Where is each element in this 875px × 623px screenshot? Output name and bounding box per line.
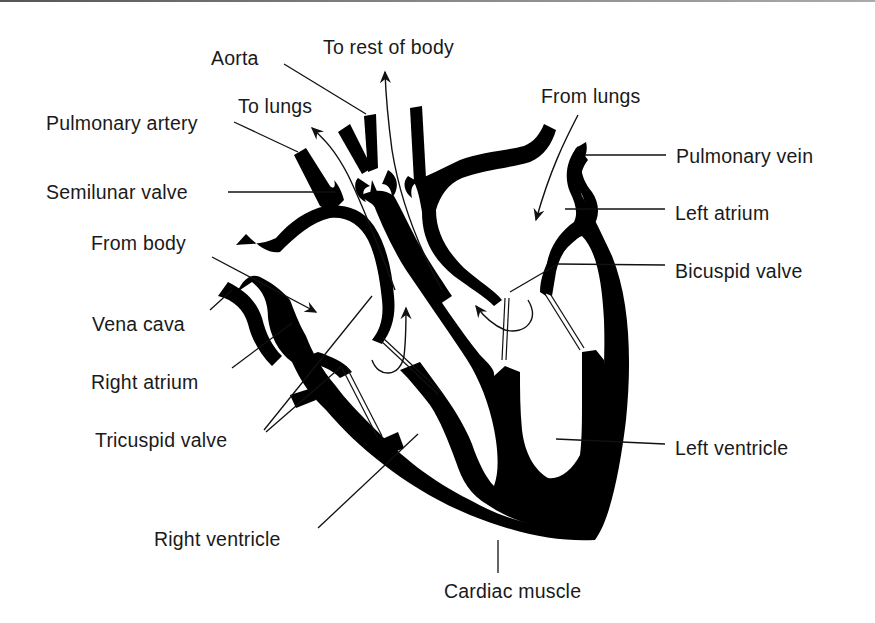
label-cardiac-muscle: Cardiac muscle: [444, 582, 581, 602]
valve-chordae: [342, 292, 584, 438]
label-pulmonary-artery: Pulmonary artery: [46, 114, 198, 134]
label-from-lungs: From lungs: [541, 87, 641, 107]
label-vena-cava: Vena cava: [92, 315, 185, 335]
pulmonary-artery-shape: [294, 148, 344, 212]
label-aorta: Aorta: [211, 49, 259, 69]
label-left-atrium: Left atrium: [675, 204, 769, 224]
label-pulmonary-vein: Pulmonary vein: [676, 147, 813, 167]
label-left-ventricle: Left ventricle: [675, 439, 788, 459]
label-from-body: From body: [91, 234, 186, 254]
label-to-lungs: To lungs: [238, 97, 312, 117]
label-tricuspid-valve: Tricuspid valve: [95, 431, 227, 451]
label-bicuspid-valve: Bicuspid valve: [675, 262, 802, 282]
label-right-atrium: Right atrium: [91, 373, 199, 393]
label-semilunar-valve: Semilunar valve: [46, 183, 188, 203]
heart-diagram: [0, 0, 875, 623]
label-right-ventricle: Right ventricle: [154, 530, 281, 550]
label-to-rest-of-body: To rest of body: [323, 38, 454, 58]
aorta-shape: [338, 106, 556, 306]
